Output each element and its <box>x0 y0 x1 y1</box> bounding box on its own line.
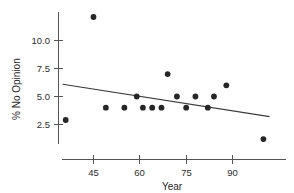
x-tick-label-75: 75 <box>181 167 192 178</box>
data-points-group <box>63 14 266 142</box>
data-point <box>211 94 217 100</box>
data-point <box>63 117 69 123</box>
y-axis-title: % No Opinion <box>11 58 22 120</box>
x-tick-label-60: 60 <box>134 167 145 178</box>
scatter-chart: 10.0 7.5 5.0 2.5 % No Opinion 45 60 75 9… <box>0 0 294 193</box>
y-tick-label-5-0: 5.0 <box>37 91 50 102</box>
data-point <box>91 14 97 20</box>
data-point <box>260 136 266 142</box>
data-point <box>183 105 189 111</box>
data-point <box>121 105 127 111</box>
plot-area: 10.0 7.5 5.0 2.5 % No Opinion 45 60 75 9… <box>0 0 294 193</box>
data-point <box>205 105 211 111</box>
data-point <box>149 105 155 111</box>
x-tick-label-45: 45 <box>88 167 99 178</box>
y-tick-label-10-0: 10.0 <box>32 35 51 46</box>
data-point <box>174 94 180 100</box>
x-tick-label-90: 90 <box>227 167 238 178</box>
data-point <box>103 105 109 111</box>
data-point <box>140 105 146 111</box>
data-point <box>193 94 199 100</box>
x-axis-title: Year <box>162 181 183 192</box>
data-point <box>159 105 165 111</box>
y-tick-label-7-5: 7.5 <box>37 63 50 74</box>
trend-line <box>63 84 270 116</box>
data-point <box>134 94 140 100</box>
data-point <box>165 71 171 77</box>
data-point <box>223 82 229 88</box>
y-tick-label-2-5: 2.5 <box>37 119 50 130</box>
